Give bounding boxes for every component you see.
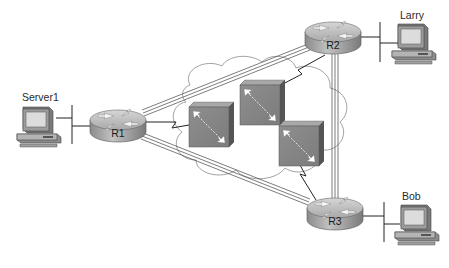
lan-server1-r1 [56,105,92,144]
frame-relay-switch-2 [240,80,285,125]
pc-bob [395,205,439,245]
router-r1: R1 [90,109,146,142]
frame-relay-switch-1 [189,102,234,147]
pc-larry [392,24,436,64]
frame-relay-switch-3 [279,121,324,166]
router-r1-label: R1 [111,127,125,139]
bob-label: Bob [402,190,421,202]
network-diagram: R1 R2 R3 Server1 Larry Bob [0,0,449,268]
pc-server1 [17,107,61,147]
server1-label: Server1 [22,91,59,103]
router-r2-label: R2 [326,39,340,51]
router-r2: R2 [305,21,361,54]
larry-label: Larry [400,9,425,21]
router-r3: R3 [307,197,363,230]
lan-bob-r3 [362,202,400,242]
router-r3-label: R3 [328,215,342,227]
